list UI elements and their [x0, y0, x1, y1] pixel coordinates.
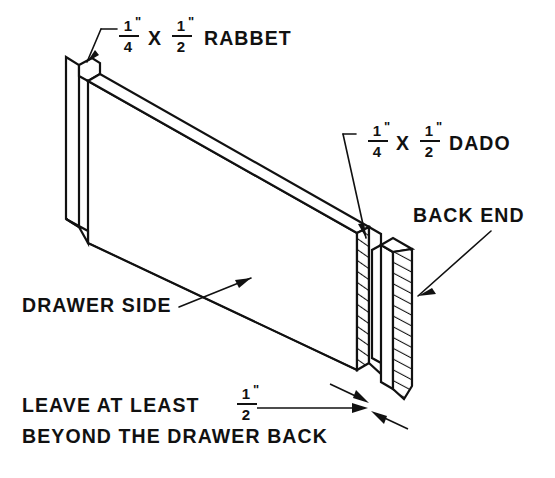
back-end-piece	[381, 238, 412, 399]
board-left-end-face	[66, 57, 79, 227]
rabbet-fraction-b-numerator: 1	[177, 17, 185, 34]
dado-fraction-a-unit: "	[384, 119, 390, 134]
clearance-note-line2: BEYOND THE DRAWER BACK	[22, 425, 328, 447]
back-end-label: BACK END	[413, 204, 525, 226]
clearance-fraction-numerator: 1	[242, 385, 250, 402]
rabbet-label: 1 " 4 X 1 " 2 RABBET	[119, 14, 292, 55]
drawer-side-main-face	[88, 81, 357, 370]
rabbet-fraction-a-unit: "	[135, 14, 141, 29]
rabbet-leader-line	[87, 29, 117, 62]
rabbet-label-name: RABBET	[204, 27, 292, 49]
dado-fraction-a-denominator: 4	[373, 143, 382, 160]
rabbet-separator: X	[148, 27, 162, 49]
drawer-side-joinery-illustration: 1 " 4 X 1 " 2 RABBET 1 " 4 X 1	[0, 0, 555, 478]
technical-drawing-canvas: 1 " 4 X 1 " 2 RABBET 1 " 4 X 1	[0, 0, 555, 478]
clearance-note-prefix: LEAVE AT LEAST	[22, 394, 200, 416]
dado-fraction-a-numerator: 1	[373, 122, 381, 139]
clearance-fraction-unit: "	[253, 382, 259, 397]
rabbet-fraction-a-numerator: 1	[124, 17, 132, 34]
drawer-side-label: DRAWER SIDE	[22, 294, 172, 316]
dado-fraction-b-denominator: 2	[425, 143, 433, 160]
dado-cut-section	[357, 227, 369, 370]
clearance-fraction-denominator: 2	[242, 406, 250, 423]
dado-label: 1 " 4 X 1 " 2 DADO	[368, 119, 511, 160]
dado-fraction-b-unit: "	[436, 119, 442, 134]
dado-separator: X	[396, 132, 410, 154]
clearance-fraction: 1 " 2	[237, 382, 259, 423]
back-end-leader-line	[418, 231, 491, 296]
rabbet-fraction-a-denominator: 4	[124, 38, 133, 55]
rabbet-fraction-b-denominator: 2	[177, 38, 185, 55]
dado-label-name: DADO	[449, 132, 511, 154]
rabbet-fraction-b-unit: "	[188, 14, 194, 29]
dado-groove-notch	[369, 227, 381, 374]
dado-fraction-b-numerator: 1	[425, 122, 433, 139]
clearance-dimension-line	[257, 384, 408, 429]
